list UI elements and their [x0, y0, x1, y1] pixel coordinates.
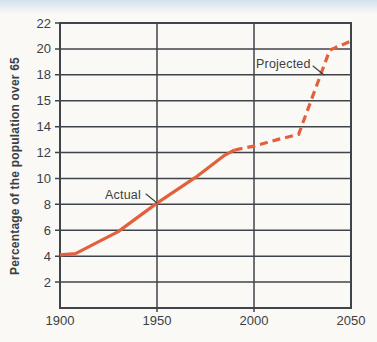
figure-area: 2220181514121086421900195020002050 Perce…: [0, 0, 377, 342]
y-tick-label: 12: [37, 145, 51, 160]
x-tick-label: 1950: [143, 313, 172, 328]
annotation-actual-label: Actual: [105, 188, 141, 202]
x-tick-label: 1900: [46, 313, 75, 328]
population-over-65-line-chart: 2220181514121086421900195020002050: [0, 0, 377, 342]
y-tick-label: 22: [37, 16, 51, 31]
actual-leader-line: [146, 194, 157, 203]
y-tick-label: 8: [44, 197, 51, 212]
x-tick-label: 2050: [337, 313, 366, 328]
y-tick-label: 14: [37, 119, 51, 134]
y-tick-label: 6: [44, 223, 51, 238]
y-tick-label: 18: [37, 67, 51, 82]
y-tick-label: 15: [37, 93, 51, 108]
textbook-page: { "page": { "background": "#faf9f5", "to…: [0, 0, 377, 342]
y-tick-label: 4: [44, 249, 51, 264]
y-tick-label: 20: [37, 41, 51, 56]
x-tick-label: 2000: [240, 313, 269, 328]
y-axis-title: Percentage of the population over 65: [8, 57, 22, 275]
annotation-projected-label: Projected: [256, 57, 311, 71]
y-tick-label: 2: [44, 275, 51, 290]
series-actual-line: [60, 150, 235, 255]
y-tick-label: 10: [37, 171, 51, 186]
